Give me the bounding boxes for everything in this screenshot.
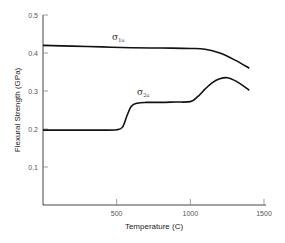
- y-tick-label: 0.5: [28, 12, 38, 19]
- x-tick-label: 1500: [256, 210, 272, 217]
- y-axis-title: Flexural Strength (GPa): [13, 67, 22, 152]
- ticks: 0.10.20.30.40.550010001500: [28, 12, 272, 218]
- y-tick-label: 0.3: [28, 88, 38, 95]
- y-tick-label: 0.2: [28, 126, 38, 133]
- x-axis-title: Temperature (C): [125, 222, 184, 231]
- y-tick-label: 0.1: [28, 164, 38, 171]
- flexural-strength-chart: 0.10.20.30.40.550010001500 σ1uσ2u Temper…: [0, 0, 285, 243]
- axes: [43, 15, 266, 205]
- x-tick-label: 1000: [183, 210, 199, 217]
- series-line-1u: [43, 45, 249, 68]
- series-label-2u: σ2u: [137, 87, 150, 98]
- x-tick-label: 500: [111, 210, 123, 217]
- y-tick-label: 0.4: [28, 50, 38, 57]
- series-label-1u: σ1u: [112, 32, 125, 43]
- series-lines: σ1uσ2u: [43, 32, 249, 130]
- series-line-2u: [43, 78, 249, 131]
